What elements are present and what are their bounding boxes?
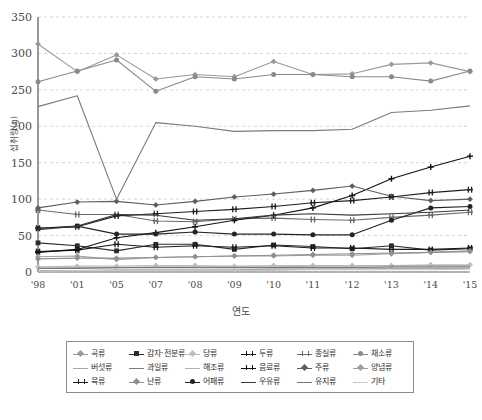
svg-text:'15: '15 (463, 279, 478, 290)
svg-text:'98: '98 (31, 279, 46, 290)
legend-item[interactable]: 유지류 (297, 377, 353, 387)
svg-text:'09: '09 (227, 279, 242, 290)
line-chart: 050100150200250300350 '98'01'05'07'08'09… (0, 0, 482, 420)
legend-item[interactable]: 우유류 (241, 377, 297, 387)
legend-marker-icon (73, 377, 88, 387)
legend-item[interactable]: 양념류 (353, 363, 409, 373)
legend-item[interactable]: 해조류 (185, 363, 241, 373)
legend-marker-icon (297, 363, 312, 373)
legend-grid: 곡류감자·전분류당류두류종실류채소류버섯류과일류해조류음료류주류양념류육류난류어… (73, 347, 409, 389)
legend: 곡류감자·전분류당류두류종실류채소류버섯류과일류해조류음료류주류양념류육류난류어… (66, 341, 414, 393)
y-axis-title: 섭취량(g) (7, 99, 19, 169)
legend-item[interactable]: 과일류 (129, 363, 185, 373)
legend-marker-icon (73, 363, 88, 373)
legend-item[interactable]: 곡류 (73, 349, 129, 359)
legend-marker-icon (241, 377, 256, 387)
svg-text:100: 100 (11, 193, 32, 206)
x-axis-title: 연도 (0, 303, 482, 318)
svg-text:'12: '12 (345, 279, 360, 290)
svg-text:350: 350 (11, 11, 32, 24)
legend-marker-icon (353, 349, 368, 359)
series-line (35, 187, 473, 232)
legend-marker-icon (73, 349, 88, 359)
legend-marker-icon (129, 363, 144, 373)
plot-svg: 050100150200250300350 '98'01'05'07'08'09… (0, 0, 482, 300)
svg-text:250: 250 (11, 84, 32, 97)
series-line (35, 41, 473, 82)
x-tick-labels: '98'01'05'07'08'09'10'11'12'13'14'15 (31, 279, 478, 290)
legend-item[interactable]: 버섯류 (73, 363, 129, 373)
legend-label: 종실류 (315, 349, 336, 359)
legend-item[interactable]: 기타 (353, 377, 409, 387)
legend-label: 두류 (259, 349, 273, 359)
legend-item[interactable]: 주류 (297, 363, 353, 373)
legend-label: 기타 (371, 377, 385, 387)
series-line (36, 57, 473, 93)
legend-item[interactable]: 두류 (241, 349, 297, 359)
legend-label: 육류 (91, 377, 105, 387)
legend-label: 우유류 (259, 377, 280, 387)
legend-label: 당류 (203, 349, 217, 359)
series-line (35, 153, 473, 255)
legend-item[interactable]: 종실류 (297, 349, 353, 359)
legend-label: 주류 (315, 363, 329, 373)
legend-label: 채소류 (371, 349, 392, 359)
legend-marker-icon (185, 363, 200, 373)
legend-item[interactable]: 난류 (129, 377, 185, 387)
svg-text:'08: '08 (188, 279, 203, 290)
svg-text:'14: '14 (423, 279, 438, 290)
plot-area: 050100150200250300350 '98'01'05'07'08'09… (0, 0, 482, 300)
legend-marker-icon (185, 377, 200, 387)
legend-label: 버섯류 (91, 363, 112, 373)
legend-item[interactable]: 음료류 (241, 363, 297, 373)
legend-item[interactable]: 육류 (73, 377, 129, 387)
legend-label: 유지류 (315, 377, 336, 387)
legend-marker-icon (353, 363, 368, 373)
legend-label: 곡류 (91, 349, 105, 359)
legend-marker-icon (297, 349, 312, 359)
legend-item[interactable]: 채소류 (353, 349, 409, 359)
svg-text:50: 50 (18, 230, 32, 243)
legend-marker-icon (353, 377, 368, 387)
legend-item[interactable]: 어패류 (185, 377, 241, 387)
svg-text:'01: '01 (70, 279, 85, 290)
legend-item[interactable]: 당류 (185, 349, 241, 359)
legend-marker-icon (185, 349, 200, 359)
legend-label: 난류 (147, 377, 161, 387)
series-line (35, 207, 473, 225)
series-line (35, 183, 473, 211)
svg-text:'11: '11 (306, 279, 321, 290)
legend-marker-icon (129, 349, 144, 359)
legend-label: 어패류 (203, 377, 224, 387)
legend-item[interactable]: 감자·전분류 (129, 349, 185, 359)
series-line (38, 96, 470, 199)
svg-text:'05: '05 (109, 279, 124, 290)
legend-marker-icon (241, 349, 256, 359)
svg-text:'13: '13 (384, 279, 399, 290)
legend-label: 음료류 (259, 363, 280, 373)
svg-text:0: 0 (25, 266, 32, 279)
svg-text:300: 300 (11, 47, 32, 60)
legend-label: 과일류 (147, 363, 168, 373)
legend-label: 양념류 (371, 363, 392, 373)
legend-marker-icon (297, 377, 312, 387)
series-line (35, 249, 473, 262)
legend-label: 해조류 (203, 363, 224, 373)
svg-text:'10: '10 (266, 279, 281, 290)
data-series-group (35, 41, 473, 271)
legend-label: 감자·전분류 (147, 349, 185, 359)
svg-text:'07: '07 (148, 279, 163, 290)
legend-marker-icon (129, 377, 144, 387)
legend-marker-icon (241, 363, 256, 373)
